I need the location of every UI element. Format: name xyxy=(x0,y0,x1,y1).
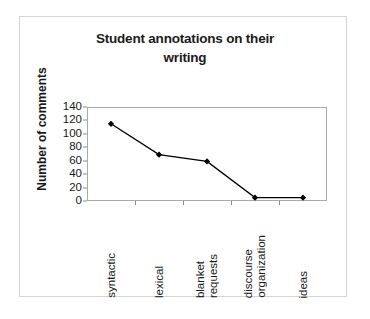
chart-outer-border: Student annotations on their writing Num… xyxy=(19,16,347,297)
y-axis-title: Number of comments xyxy=(35,54,49,204)
x-category-label-group: ideas xyxy=(279,208,327,298)
x-tick-mark xyxy=(183,201,184,205)
chart-title: Student annotations on their writing xyxy=(50,29,320,67)
y-tick-label: 20 xyxy=(69,182,82,194)
chart-title-line-2: writing xyxy=(50,48,320,67)
x-category-label: organization xyxy=(255,235,268,298)
y-tick-label: 120 xyxy=(63,115,82,127)
x-category-label-group: discourseorganization xyxy=(231,208,279,298)
x-tick-mark xyxy=(135,201,136,205)
x-category-label: syntactic xyxy=(105,253,118,298)
x-category-label: ideas xyxy=(297,271,310,299)
x-category-label-group: lexical xyxy=(135,208,183,298)
x-category-label-group: syntactic xyxy=(87,208,135,298)
y-tick-label: 0 xyxy=(76,195,82,207)
y-tick-label: 140 xyxy=(63,101,82,113)
y-tick-label: 80 xyxy=(69,142,82,154)
chart-title-line-1: Student annotations on their xyxy=(50,29,320,48)
x-tick-mark xyxy=(279,201,280,205)
x-tick-mark xyxy=(231,201,232,205)
y-tick-label: 40 xyxy=(69,168,82,180)
line-series xyxy=(87,107,327,201)
y-tick-label: 60 xyxy=(69,155,82,167)
y-tick-label: 100 xyxy=(63,128,82,140)
plot-wrap: 020406080100120140 syntacticlexicalblank… xyxy=(87,107,327,201)
data-point-marker xyxy=(300,195,306,201)
x-category-label: lexical xyxy=(153,266,166,298)
x-category-label: discourse xyxy=(242,249,255,298)
x-category-label: blanket xyxy=(194,261,207,298)
x-category-label-group: blanketrequests xyxy=(183,208,231,298)
x-category-label: requests xyxy=(207,254,220,298)
